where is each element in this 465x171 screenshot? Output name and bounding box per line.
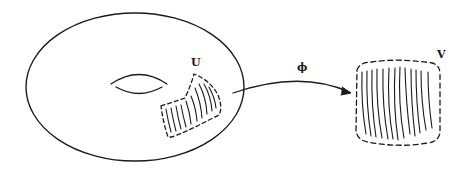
region-v-boundary [356, 60, 440, 145]
label-v: V [437, 49, 446, 60]
label-u: U [191, 57, 201, 68]
map-arrow-phi [233, 81, 349, 93]
diagram-svg [0, 0, 465, 171]
patch-u-hatching [166, 84, 216, 132]
label-phi: ϕ [297, 62, 307, 73]
region-v-hatching [362, 67, 432, 140]
arrowhead-icon [341, 87, 351, 95]
torus-hole [111, 75, 167, 94]
torus-outline [26, 13, 244, 161]
diagram-canvas: U ϕ V [0, 0, 465, 171]
